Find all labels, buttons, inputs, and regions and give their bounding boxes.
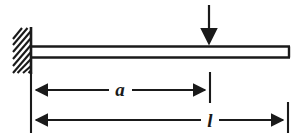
extension-lines bbox=[31, 72, 288, 133]
fixed-support-hatching bbox=[13, 28, 31, 73]
dimension-l-label: l bbox=[207, 110, 213, 131]
beam-diagram: a l bbox=[0, 0, 303, 136]
dimension-a-label: a bbox=[115, 79, 125, 100]
beam bbox=[31, 47, 290, 58]
dimension-l: l bbox=[36, 110, 283, 131]
dimension-a: a bbox=[36, 79, 205, 100]
diagram-canvas: a l bbox=[0, 0, 303, 136]
